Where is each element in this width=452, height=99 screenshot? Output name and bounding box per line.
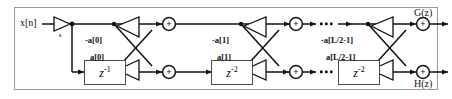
adder-bottom-2-symbol: + (293, 68, 298, 77)
adder-top-1-symbol: + (166, 20, 171, 29)
input-label: x[n] (20, 17, 37, 28)
output-bottom-label: H(z) (414, 78, 432, 89)
output-top-label: G(z) (414, 7, 432, 18)
delay-1-label: z-1 (99, 65, 110, 81)
adder-bottom-3-symbol: + (420, 68, 425, 77)
delay-3-label: z-2 (353, 65, 364, 81)
coef-label-upper-3: -a[L/2-1] (321, 35, 353, 45)
delay-2-label: z-2 (226, 65, 237, 81)
diagram-canvas: + + + + + + z-1 z-2 z-2 x[n] G(z) H(z) s… (0, 0, 452, 99)
coef-label-upper-1: -a[0] (85, 35, 102, 45)
coef-label-lower-3: a[L/2-1] (326, 52, 355, 62)
delay-block-2: z-2 (211, 60, 253, 85)
coef-label-upper-2: -a[1] (212, 35, 229, 45)
gain-label-s: s (59, 32, 61, 38)
adder-bottom-1-symbol: + (166, 68, 171, 77)
adder-top-2-symbol: + (293, 20, 298, 29)
delay-block-3: z-2 (338, 60, 380, 85)
coef-label-lower-1: a[0] (90, 52, 104, 62)
coef-label-lower-2: a[1] (217, 52, 231, 62)
delay-block-1: z-1 (84, 60, 126, 85)
adder-top-3-symbol: + (420, 20, 425, 29)
